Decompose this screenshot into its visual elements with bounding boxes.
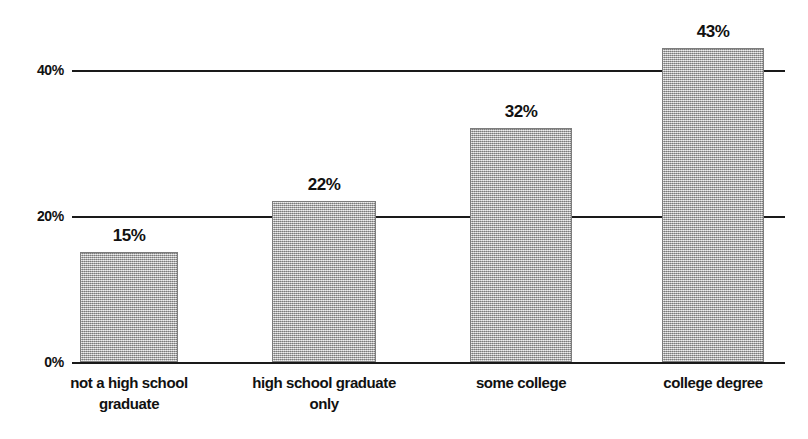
plot-area: 40% 20% 0% 15% not a high school graduat…: [0, 0, 808, 439]
bar-college-degree[interactable]: [662, 48, 764, 362]
bar-chart: 40% 20% 0% 15% not a high school graduat…: [0, 0, 808, 439]
y-tick-label-40: 40%: [4, 62, 64, 78]
category-label-2: high school graduate only: [239, 372, 409, 414]
category-label-4-line-1: college degree: [633, 372, 793, 393]
bar-value-label-3: 32%: [470, 102, 572, 122]
y-tick-label-0: 0%: [4, 354, 64, 370]
category-label-2-line-1: high school graduate: [239, 372, 409, 393]
category-label-1-line-2: graduate: [49, 393, 209, 414]
axis-baseline-0: [72, 362, 785, 364]
category-label-2-line-2: only: [239, 393, 409, 414]
bar-value-label-2: 22%: [272, 175, 376, 195]
bar-some-college[interactable]: [470, 128, 572, 362]
bar-high-school-graduate-only[interactable]: [272, 201, 376, 362]
category-label-1-line-1: not a high school: [49, 372, 209, 393]
category-label-1: not a high school graduate: [49, 372, 209, 414]
category-label-3-line-1: some college: [441, 372, 601, 393]
y-tick-label-20: 20%: [4, 208, 64, 224]
bar-value-label-4: 43%: [662, 22, 764, 42]
category-label-3: some college: [441, 372, 601, 393]
bar-value-label-1: 15%: [80, 226, 178, 246]
bar-not-a-high-school-graduate[interactable]: [80, 252, 178, 362]
category-label-4: college degree: [633, 372, 793, 393]
